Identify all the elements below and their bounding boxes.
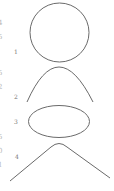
shape-hyperbola-branch [10,144,110,182]
shape-parabola [27,67,93,102]
shape-label-2: 2 [14,94,18,100]
shape-label-4: 4 [15,154,19,160]
shape-label-1: 1 [14,49,18,55]
shape-label-3: 3 [14,119,18,125]
shape-ellipse [29,106,90,138]
shape-circle [30,3,89,62]
